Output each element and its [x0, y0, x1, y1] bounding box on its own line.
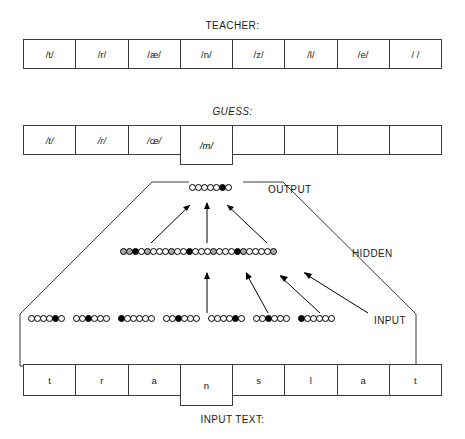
input-text-cell[interactable]: s [233, 365, 285, 395]
input-text-cell[interactable]: a [338, 365, 390, 395]
guess-cell[interactable]: /r/ [76, 126, 128, 154]
input-text-cell[interactable]: l [285, 365, 337, 395]
teacher-cell[interactable]: / / [390, 40, 441, 68]
guess-cell[interactable] [285, 126, 337, 154]
output-layer-units [189, 184, 231, 191]
input-unit [193, 315, 200, 322]
input-text-cell[interactable]: t [390, 365, 441, 395]
guess-title: GUESS: [0, 106, 465, 117]
hidden-layer-units [120, 248, 276, 255]
input-text-cell[interactable]: r [76, 365, 128, 395]
input-layer-units [28, 315, 334, 322]
guess-cell[interactable] [233, 126, 285, 154]
guess-cell[interactable] [338, 126, 390, 154]
input-to-hidden-arrows [204, 272, 368, 313]
input-text-focus-cell[interactable]: n [180, 364, 233, 406]
input-unit [283, 315, 290, 322]
teacher-row: /t//r//æ//n//z//l//e// / [23, 39, 442, 69]
guess-focus-cell[interactable]: /m/ [180, 125, 233, 165]
network-trapezoid [20, 182, 416, 366]
teacher-cell[interactable]: /æ/ [129, 40, 181, 68]
teacher-cell[interactable]: /t/ [24, 40, 76, 68]
teacher-cell[interactable]: /r/ [76, 40, 128, 68]
input-unit [103, 315, 110, 322]
guess-cell[interactable] [390, 126, 441, 154]
hidden-unit [270, 248, 277, 255]
hidden-label: HIDDEN [352, 248, 393, 259]
teacher-cell[interactable]: /l/ [285, 40, 337, 68]
output-label: OUTPUT [268, 184, 312, 195]
teacher-title: TEACHER: [0, 20, 465, 31]
teacher-cell[interactable]: /n/ [181, 40, 233, 68]
teacher-cell[interactable]: /z/ [233, 40, 285, 68]
input-text-cell[interactable]: t [24, 365, 76, 395]
guess-cell[interactable]: /t/ [24, 126, 76, 154]
input-unit [238, 315, 245, 322]
input-unit [148, 315, 155, 322]
input-text-cell[interactable]: a [129, 365, 181, 395]
input-unit [58, 315, 65, 322]
input-text-title: INPUT TEXT: [0, 414, 465, 425]
output-unit [225, 184, 232, 191]
input-label: INPUT [374, 315, 406, 326]
guess-cell[interactable]: /œ/ [129, 126, 181, 154]
diagram-canvas: TEACHER: /t//r//æ//n//z//l//e// / GUESS:… [0, 0, 465, 439]
input-unit [328, 315, 335, 322]
hidden-to-output-arrows [151, 202, 267, 243]
teacher-cell[interactable]: /e/ [338, 40, 390, 68]
